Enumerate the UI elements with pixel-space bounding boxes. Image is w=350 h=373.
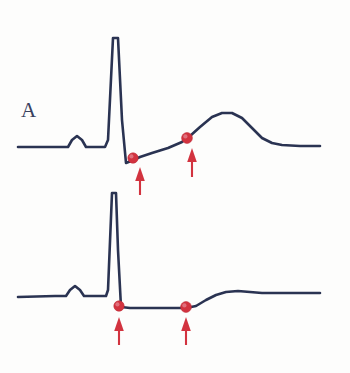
ecg-panel-b: B <box>0 190 350 373</box>
ecg-panel-a-svg <box>0 0 350 195</box>
ecg-figure: A B <box>0 0 350 373</box>
j-point-marker-b <box>114 301 124 311</box>
j-point-marker-a <box>128 153 138 163</box>
j-point-marker-b-highlight <box>115 302 119 306</box>
j-point-marker-a-highlight <box>129 154 133 158</box>
st-segment-marker-a-highlight <box>183 134 187 138</box>
st-segment-marker-a <box>182 133 193 144</box>
st-segment-marker-b-highlight <box>182 303 186 307</box>
ecg-panel-a: A <box>0 0 350 190</box>
ecg-trace-b <box>18 193 320 308</box>
st-segment-arrow-a <box>187 148 197 177</box>
j-point-arrow-b <box>114 317 124 345</box>
panel-label-a: A <box>21 100 37 121</box>
ecg-panel-b-svg <box>0 190 350 373</box>
ecg-trace-a <box>18 38 320 163</box>
st-segment-arrow-b <box>181 317 191 345</box>
st-segment-marker-b <box>181 302 192 313</box>
